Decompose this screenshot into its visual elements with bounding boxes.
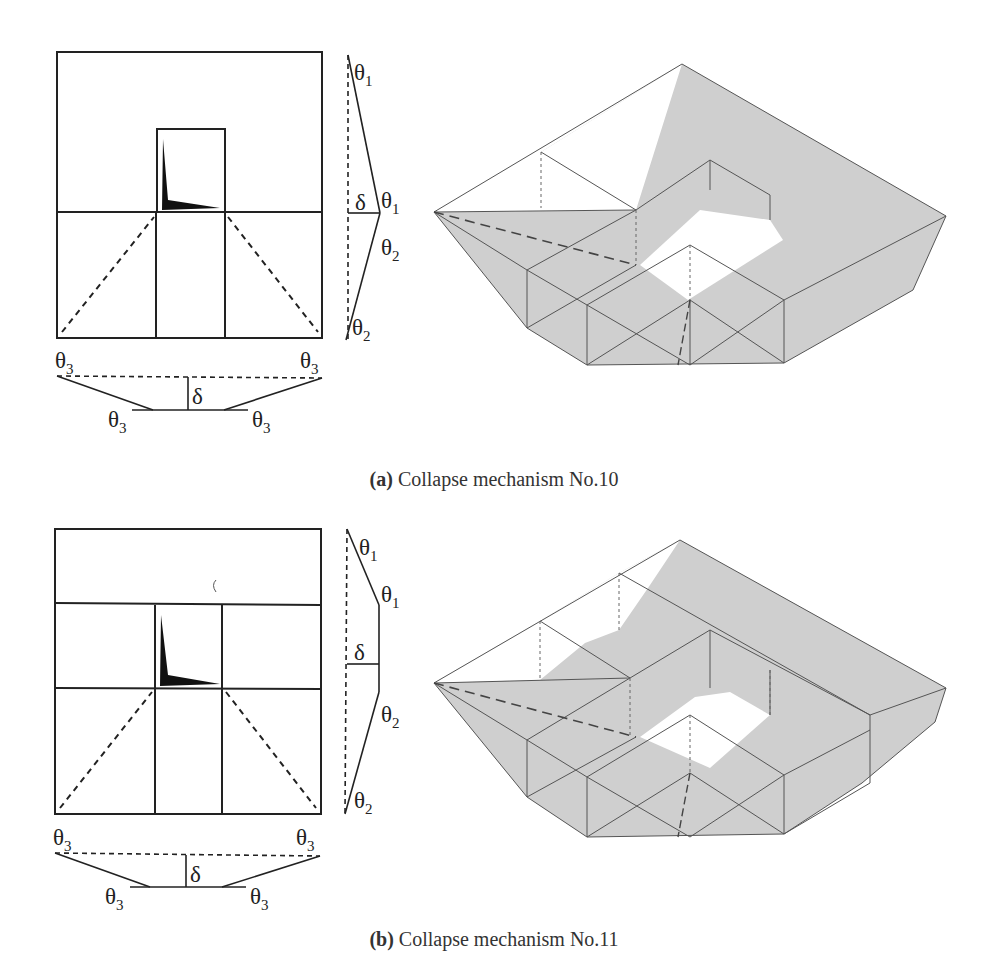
delta-side-label: δ — [354, 640, 365, 665]
column-l-shape-icon — [160, 615, 220, 686]
delta-bottom-label: δ — [192, 384, 203, 409]
panel-b-drawing: θ1 θ1 δ θ2 θ2 θ3 θ3 δ θ3 θ3 — [0, 500, 988, 979]
caption-b-tag: (b) — [369, 928, 393, 950]
theta2-bottom-label: θ2 — [352, 315, 371, 344]
collapse-3d-view — [434, 64, 946, 365]
panel-a-drawing: θ1 δ θ1 θ2 θ2 θ3 θ3 δ θ3 θ3 — [0, 0, 988, 500]
panel-a-collapse-mechanism-10: θ1 δ θ1 θ2 θ2 θ3 θ3 δ θ3 θ3 — [0, 0, 988, 500]
panel-b-collapse-mechanism-11: θ1 θ1 δ θ2 θ2 θ3 θ3 δ θ3 θ3 — [0, 500, 988, 979]
side-section — [345, 529, 379, 814]
collapse-3d-view — [434, 540, 946, 837]
caption-a-text: Collapse mechanism No.10 — [398, 468, 619, 490]
theta3-top-right-label: θ3 — [296, 825, 315, 854]
theta2-mid-label: θ2 — [381, 235, 400, 264]
caption-b-text: Collapse mechanism No.11 — [399, 928, 619, 950]
theta3-bottom-left-label: θ3 — [105, 884, 124, 913]
bottom-section — [57, 376, 322, 410]
theta3-top-left-label: θ3 — [53, 825, 72, 854]
theta3-top-right-label: θ3 — [300, 348, 319, 377]
slab-plan-view — [57, 52, 322, 338]
delta-bottom-label: δ — [190, 862, 201, 887]
theta3-bottom-right-label: θ3 — [252, 407, 271, 436]
caption-a-tag: (a) — [370, 468, 393, 490]
caption-a: (a) Collapse mechanism No.10 — [0, 468, 988, 491]
theta2-mid-label: θ2 — [381, 702, 400, 731]
theta1-top-label: θ1 — [359, 535, 378, 564]
theta2-bottom-label: θ2 — [354, 788, 373, 817]
theta3-bottom-left-label: θ3 — [108, 407, 127, 436]
bottom-section — [55, 853, 320, 887]
theta1-top-label: θ1 — [354, 60, 373, 89]
stray-mark-icon — [214, 580, 217, 592]
theta3-bottom-right-label: θ3 — [250, 884, 269, 913]
theta1-mid-label: θ1 — [381, 188, 400, 217]
delta-side-label: δ — [355, 190, 366, 215]
slab-plan-view — [55, 529, 321, 814]
theta3-top-left-label: θ3 — [55, 348, 74, 377]
caption-b: (b) Collapse mechanism No.11 — [0, 928, 988, 951]
column-l-shape-icon — [162, 139, 220, 210]
theta1-mid-label: θ1 — [381, 582, 400, 611]
